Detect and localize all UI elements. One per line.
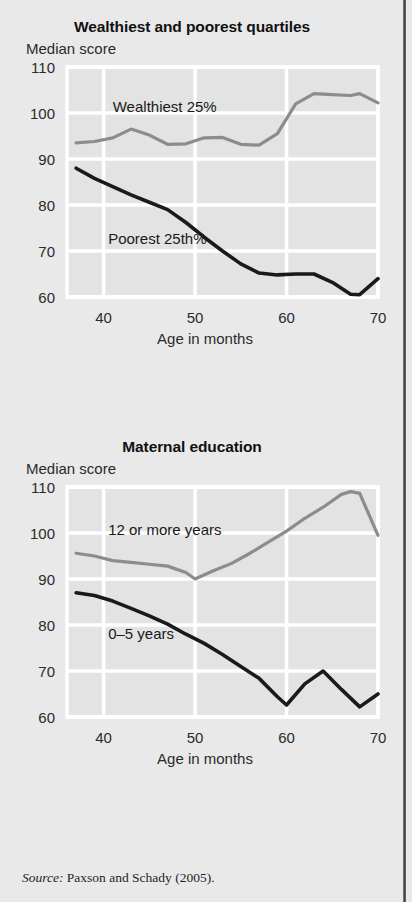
page-edge-rule bbox=[403, 0, 406, 902]
series-inline-label: Wealthiest 25% bbox=[113, 98, 217, 115]
x-tick-label: 60 bbox=[278, 729, 295, 746]
series-inline-label: 0–5 years bbox=[108, 625, 174, 642]
y-tick-label: 70 bbox=[38, 243, 55, 260]
y-tick-label: 100 bbox=[30, 105, 55, 122]
plot-area-1: 6070809010011040506070Wealthiest 25%Poor… bbox=[0, 59, 396, 329]
y-tick-label: 100 bbox=[30, 525, 55, 542]
chart-title-1: Wealthiest and poorest quartiles bbox=[0, 18, 396, 36]
x-tick-label: 60 bbox=[278, 309, 295, 326]
y-tick-label: 80 bbox=[38, 617, 55, 634]
y-tick-label: 80 bbox=[38, 197, 55, 214]
y-tick-label: 60 bbox=[38, 289, 55, 306]
source-note: Source: Paxson and Schady (2005). bbox=[22, 870, 215, 886]
chart-panel-wealth-quartiles: Wealthiest and poorest quartiles Median … bbox=[0, 18, 396, 347]
x-axis-label-1: Age in months bbox=[0, 330, 396, 347]
y-tick-label: 90 bbox=[38, 571, 55, 588]
y-tick-label: 110 bbox=[31, 479, 55, 496]
x-tick-label: 40 bbox=[95, 309, 112, 326]
x-tick-label: 40 bbox=[95, 729, 112, 746]
chart-svg-1: 6070809010011040506070Wealthiest 25%Poor… bbox=[0, 59, 396, 329]
x-tick-label: 70 bbox=[370, 729, 387, 746]
x-tick-label: 50 bbox=[187, 309, 204, 326]
series-inline-label: Poorest 25th% bbox=[108, 230, 206, 247]
y-tick-label: 70 bbox=[38, 663, 55, 680]
y-tick-label: 90 bbox=[38, 151, 55, 168]
y-axis-label-1: Median score bbox=[26, 40, 396, 57]
plot-area-2: 607080901001104050607012 or more years0–… bbox=[0, 479, 396, 749]
y-axis-label-2: Median score bbox=[26, 460, 396, 477]
source-text: Paxson and Schady (2005). bbox=[63, 870, 214, 885]
chart-title-2: Maternal education bbox=[0, 438, 396, 456]
chart-panel-maternal-education: Maternal education Median score 60708090… bbox=[0, 438, 396, 767]
y-tick-label: 60 bbox=[38, 709, 55, 726]
x-tick-label: 70 bbox=[370, 309, 387, 326]
x-tick-label: 50 bbox=[187, 729, 204, 746]
chart-svg-2: 607080901001104050607012 or more years0–… bbox=[0, 479, 396, 749]
source-label: Source: bbox=[22, 870, 63, 885]
series-inline-label: 12 or more years bbox=[108, 521, 221, 538]
y-tick-label: 110 bbox=[31, 59, 55, 76]
x-axis-label-2: Age in months bbox=[0, 750, 396, 767]
